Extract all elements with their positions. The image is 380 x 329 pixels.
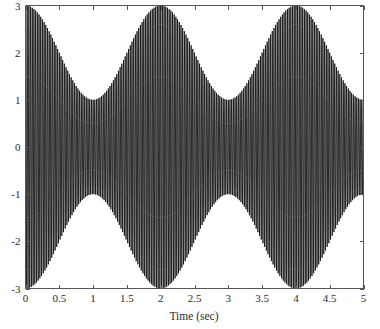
y-tick-label: 3 bbox=[15, 0, 21, 12]
x-axis-title: Time (sec) bbox=[169, 310, 218, 323]
x-tick-label: 1 bbox=[90, 292, 96, 304]
y-tick-label: -3 bbox=[11, 283, 21, 295]
y-tick-label: 0 bbox=[15, 141, 21, 153]
x-tick-label: 0 bbox=[23, 292, 29, 304]
y-tick-label: -1 bbox=[11, 188, 20, 200]
x-tick-label: 3.5 bbox=[255, 292, 269, 304]
chart-canvas: 00.511.522.533.544.55 -3-2-10123 Time (s… bbox=[0, 0, 380, 329]
x-tick-label: 1.5 bbox=[120, 292, 134, 304]
x-tick-label: 5 bbox=[361, 292, 367, 304]
y-tick-label: -2 bbox=[11, 235, 20, 247]
x-tick-label: 4.5 bbox=[323, 292, 337, 304]
figure-container: 00.511.522.533.544.55 -3-2-10123 Time (s… bbox=[0, 0, 380, 329]
x-tick-label: 0.5 bbox=[52, 292, 66, 304]
x-tick-label: 4 bbox=[293, 292, 299, 304]
y-tick-label: 2 bbox=[15, 47, 21, 59]
x-tick-label: 3 bbox=[226, 292, 232, 304]
x-tick-label: 2 bbox=[158, 292, 164, 304]
y-tick-label: 1 bbox=[15, 94, 21, 106]
x-tick-label: 2.5 bbox=[188, 292, 202, 304]
